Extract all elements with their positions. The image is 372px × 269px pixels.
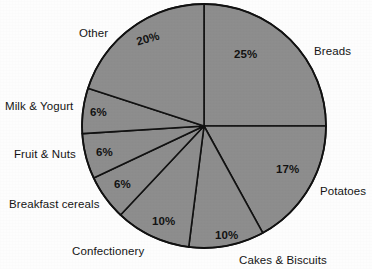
pie-chart-graphic bbox=[0, 0, 372, 269]
pie-slice-breads bbox=[204, 4, 326, 126]
pie-chart-figure: 25% 17% 10% 10% 6% 6% 6% 20% Breads Pota… bbox=[0, 0, 372, 269]
slice-label-potatoes: Potatoes bbox=[320, 185, 366, 197]
slice-label-other: Other bbox=[79, 27, 108, 39]
slice-label-fruit-nuts: Fruit & Nuts bbox=[14, 148, 76, 160]
slice-value-breads: 25% bbox=[234, 48, 257, 60]
slice-value-cakes-biscuits: 10% bbox=[215, 229, 238, 241]
slice-label-breads: Breads bbox=[314, 45, 351, 57]
pie-slice-group bbox=[82, 4, 326, 248]
slice-label-breakfast-cereals: Breakfast cereals bbox=[9, 198, 100, 210]
slice-value-breakfast-cereals: 6% bbox=[114, 178, 131, 190]
slice-value-fruit-nuts: 6% bbox=[96, 146, 113, 158]
slice-label-confectionery: Confectionery bbox=[72, 245, 144, 257]
slice-value-milk-yogurt: 6% bbox=[90, 106, 107, 118]
slice-value-potatoes: 17% bbox=[276, 163, 299, 175]
slice-label-cakes-biscuits: Cakes & Biscuits bbox=[239, 254, 327, 266]
slice-label-milk-yogurt: Milk & Yogurt bbox=[5, 100, 73, 112]
slice-value-confectionery: 10% bbox=[152, 215, 175, 227]
